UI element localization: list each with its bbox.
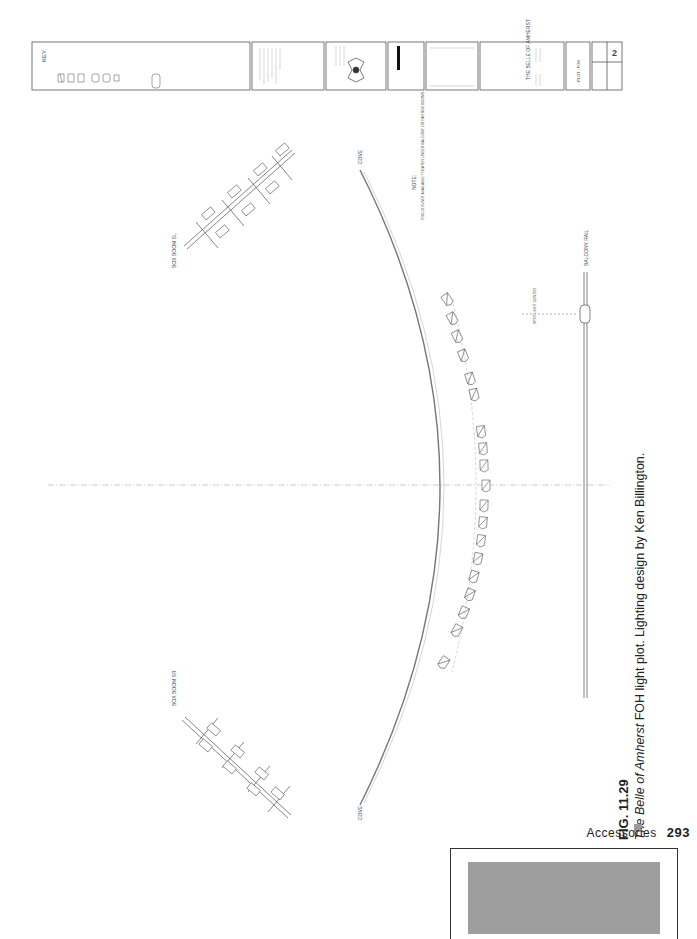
figure-text: FOH light plot. Lighting design by Ken B…	[633, 453, 647, 724]
title-block-text: KEY: THE BELLE OF AMHERST PLOT - FOH 2	[41, 19, 617, 82]
gray-bar	[468, 862, 660, 934]
revisions-box	[388, 42, 424, 90]
cove-label-bottom: COVE	[357, 805, 363, 820]
note-title: NOTE:	[411, 175, 417, 190]
title-block	[32, 42, 622, 90]
box-boom-sr-label: BOX BOOM SR	[171, 670, 177, 706]
page-number: 293	[667, 825, 690, 840]
balcony-rail-label: BALCONY RAIL	[583, 229, 589, 266]
figure-title-italic: The Belle of Amherst	[633, 724, 647, 840]
figure-caption: FIG. 11.29 The Belle of Amherst FOH ligh…	[616, 620, 676, 840]
followspot-label: SPOT LIGHT CENTER	[533, 287, 537, 324]
figure-number: FIG. 11.29	[616, 340, 631, 840]
plot-labels: COVE COVE BOX BOOM SL BOX BOOM SR BALCON…	[171, 91, 589, 820]
box-boom-sr	[182, 717, 291, 818]
key-box	[32, 42, 250, 90]
box-boom-sl-label: BOX BOOM SL	[171, 233, 177, 268]
svg-text:THE BELLE OF AMHERST: THE BELLE OF AMHERST	[525, 19, 531, 80]
running-head: Accessories293	[540, 825, 690, 840]
svg-text:2: 2	[612, 48, 617, 58]
production-box	[480, 42, 564, 90]
note-text: FOCUS IS NOT AVAILABLE THEATER UNDER BAL…	[421, 91, 425, 220]
cove-label-top: COVE	[357, 149, 363, 164]
notes-grid-box	[426, 42, 478, 90]
figure-description: The Belle of Amherst FOH light plot. Lig…	[633, 340, 647, 840]
union-stamp-box	[326, 42, 386, 90]
general-notes-box	[252, 42, 324, 90]
svg-text:KEY:: KEY:	[41, 48, 47, 62]
section-title: Accessories	[587, 826, 657, 840]
cove-pipe	[360, 170, 440, 805]
box-boom-sl	[184, 143, 295, 249]
svg-text:PLOT - FOH: PLOT - FOH	[576, 60, 581, 82]
